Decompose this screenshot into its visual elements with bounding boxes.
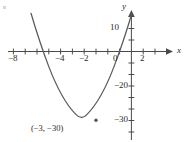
y-tick-label-neg30: −30 xyxy=(114,115,128,124)
y-tick-label-10: 10 xyxy=(110,23,119,32)
vertex-marker xyxy=(94,119,97,122)
x-axis-label: x xyxy=(177,46,181,55)
y-axis xyxy=(128,10,135,140)
x-axis xyxy=(8,48,173,55)
x-tick-label-2: 2 xyxy=(140,54,145,63)
vertex-annotation-label: (−3, −30) xyxy=(31,124,63,133)
x-tick-label-neg2: −2 xyxy=(79,54,89,63)
x-tick-label-neg8: −8 xyxy=(8,54,18,63)
parabola-figure: −8 −4 −2 0 2 10 −20 −30 x y (−3, −30) xyxy=(0,0,191,142)
y-axis-label: y xyxy=(122,2,126,11)
x-tick-label-0: 0 xyxy=(113,54,118,63)
x-tick-label-neg4: −4 xyxy=(55,54,65,63)
y-tick-label-neg20: −20 xyxy=(114,81,128,90)
plot-canvas xyxy=(0,0,191,142)
